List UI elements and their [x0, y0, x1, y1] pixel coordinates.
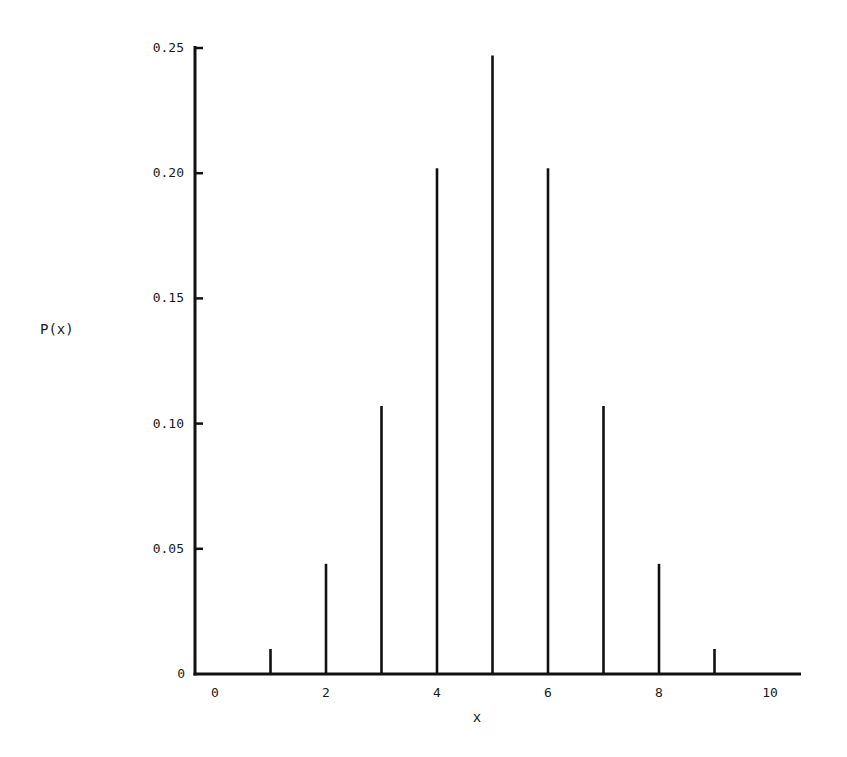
y-tick-label: 0.15: [153, 290, 184, 305]
x-tick-label: 0: [211, 685, 219, 700]
x-tick-label: 10: [762, 685, 778, 700]
x-tick-label: 4: [433, 685, 441, 700]
y-tick-label: 0.20: [153, 165, 184, 180]
x-axis-title: x: [473, 709, 481, 725]
bars-group: [271, 56, 715, 674]
x-tick-label: 6: [544, 685, 552, 700]
x-tick-label: 2: [322, 685, 330, 700]
y-tick-label: 0.25: [153, 40, 184, 55]
axes-group: [194, 46, 802, 676]
x-ticks-group: 0246810: [211, 685, 778, 700]
y-tick-label: 0.05: [153, 541, 184, 556]
y-tick-label: 0: [177, 666, 185, 681]
y-axis-title: P(x): [40, 321, 74, 337]
x-tick-label: 8: [655, 685, 663, 700]
y-tick-label: 0.10: [153, 416, 184, 431]
probability-chart: 00.050.100.150.200.25 0246810 P(x) x: [0, 0, 847, 757]
